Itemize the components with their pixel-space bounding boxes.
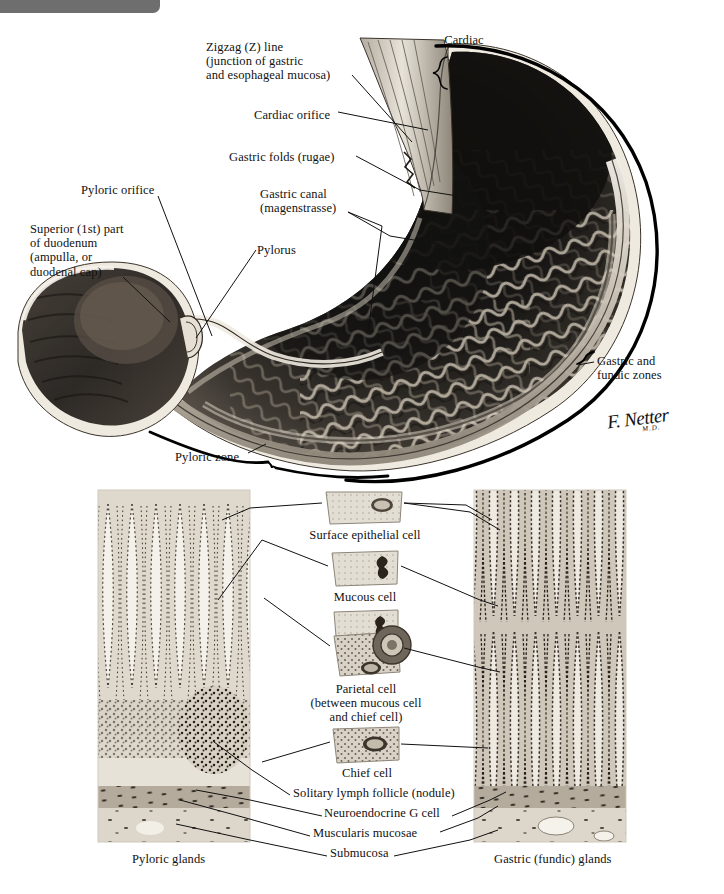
caption-gastric-fundic-glands: Gastric (fundic) glands [494, 852, 612, 866]
label-solitary-lymph-follicle: Solitary lymph follicle (nodule) [293, 786, 455, 800]
cell-inset-parietal [334, 610, 411, 676]
histology-left-panel [98, 490, 250, 842]
label-gastric-folds-rugae: Gastric folds (rugae) [229, 150, 335, 164]
illustration-plate: Zigzag (Z) line (junction of gastric and… [0, 0, 724, 894]
caption-parietal-cell: Parietal cell (between mucous cell and c… [276, 682, 456, 725]
label-superior-part-duodenum: Superior (1st) part of duodenum (ampulla… [30, 222, 124, 279]
label-cardiac-zone: Cardiac zone [433, 33, 495, 61]
label-submucosa: Submucosa [330, 846, 389, 860]
label-cardiac-orifice: Cardiac orifice [254, 108, 330, 122]
label-muscularis-mucosae: Muscularis mucosae [313, 826, 417, 840]
label-pylorus: Pylorus [257, 243, 296, 257]
caption-surface-epithelial-cell: Surface epithelial cell [282, 528, 448, 542]
caption-pyloric-glands: Pyloric glands [132, 852, 205, 866]
label-pyloric-orifice: Pyloric orifice [81, 183, 154, 197]
cell-inset-mucous [332, 551, 398, 586]
label-pyloric-zone: Pyloric zone [175, 450, 239, 464]
label-neuroendocrine-g-cell: Neuroendocrine G cell [324, 806, 440, 820]
cell-inset-chief [333, 727, 399, 763]
label-gastric-canal: Gastric canal (magenstrasse) [260, 187, 336, 215]
label-gastric-and-fundic-zones: Gastric and fundic zones [597, 354, 662, 382]
label-zigzag-line: Zigzag (Z) line (junction of gastric and… [206, 40, 330, 83]
cell-inset-surface-epithelial [326, 492, 402, 524]
caption-mucous-cell: Mucous cell [300, 590, 430, 604]
caption-chief-cell: Chief cell [312, 766, 422, 780]
histology-right-panel [474, 490, 626, 842]
